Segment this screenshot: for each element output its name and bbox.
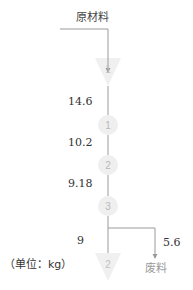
flow-value-1: 14.6 [68,96,93,107]
process-circle-2: 2 [98,155,118,175]
input-flow-line [60,29,108,58]
process-circle-3: 3 [98,196,118,216]
process-circle-3-label: 3 [105,201,111,212]
flow-value-3: 9.18 [68,178,93,189]
flow-value-2: 10.2 [68,137,93,148]
process-circle-1-label: 1 [105,120,111,131]
triangle-2-label: 2 [98,260,118,270]
process-circle-1: 1 [98,115,118,135]
flow-value-waste: 5.6 [163,237,181,248]
process-flow-diagram: 原材料 1 14.6 10.2 9.18 9 5.6 1 2 3 2 废料 （单… [0,0,193,290]
input-label: 原材料 [76,12,109,23]
flow-value-4: 9 [77,235,84,246]
process-circle-2-label: 2 [105,160,111,171]
waste-label: 废料 [145,263,167,274]
unit-note: （单位：kg） [4,259,72,270]
triangle-1-label: 1 [98,65,118,75]
